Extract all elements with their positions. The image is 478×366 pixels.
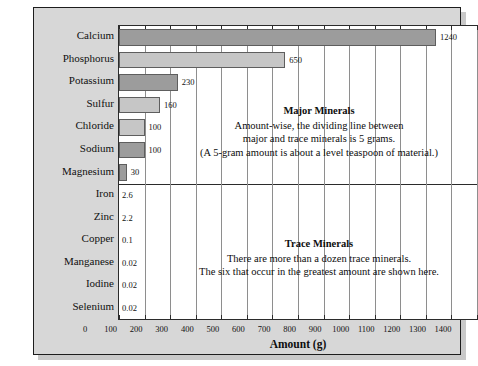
chart-panel: CalciumPhosphorusPotassiumSulfurChloride… [33,7,461,355]
x-axis-label: Amount (g) [118,338,478,350]
category-label-manganese: Manganese [34,255,114,267]
x-tick-label-1400: 1400 [428,324,458,334]
annotation-trace-line-2: The six that occur in the greatest amoun… [199,266,439,277]
category-label-phosphorus: Phosphorus [34,52,114,64]
annotation-trace-line-1: There are more than a dozen trace minera… [227,253,411,264]
annotation-major-line-2: major and trace minerals is 5 grams. [243,133,396,144]
bar-value-magnesium: 30 [131,167,140,177]
category-label-magnesium: Magnesium [34,165,114,177]
category-label-calcium: Calcium [34,29,114,41]
bar-value-potassium: 230 [182,77,195,87]
bar-value-zinc: 2.2 [122,213,133,223]
bar-row: 230 [119,71,477,94]
bar-value-iodine: 0.02 [122,280,137,290]
category-label-sulfur: Sulfur [34,97,114,109]
bar-value-iron: 2.6 [122,190,133,200]
bar-value-calcium: 1240 [440,32,457,42]
bar-sulfur [119,97,160,114]
category-axis: CalciumPhosphorusPotassiumSulfurChloride… [34,25,114,320]
category-label-chloride: Chloride [34,119,114,131]
bar-row: 2.6 [119,184,477,207]
category-label-selenium: Selenium [34,300,114,312]
bar-row: 650 [119,49,477,72]
bar-value-chloride: 100 [149,122,162,132]
category-label-copper: Copper [34,232,114,244]
bar-row: 1240 [119,26,477,49]
bar-phosphorus [119,52,285,69]
bar-value-selenium: 0.02 [122,303,137,313]
annotation-trace-minerals: Trace Minerals There are more than a doz… [174,237,464,279]
bar-value-phosphorus: 650 [289,55,302,65]
bar-value-manganese: 0.02 [122,258,137,268]
annotation-major-line-3: (A 5-gram amount is about a level teaspo… [200,147,438,158]
annotation-major-line-1: Amount-wise, the dividing line between [235,120,404,131]
bar-chloride [119,119,145,136]
bar-sodium [119,142,145,159]
annotation-trace-heading: Trace Minerals [174,237,464,251]
annotation-major-heading: Major Minerals [174,104,464,118]
bar-magnesium [119,164,127,181]
bar-row: 30 [119,161,477,184]
bar-value-copper: 0.1 [122,235,133,245]
bar-row: 2.2 [119,206,477,229]
bar-row: 0.02 [119,296,477,319]
annotation-major-minerals: Major Minerals Amount-wise, the dividing… [174,104,464,159]
category-label-iodine: Iodine [34,277,114,289]
category-label-zinc: Zinc [34,210,114,222]
bar-potassium [119,74,178,91]
category-label-potassium: Potassium [34,74,114,86]
bar-value-sodium: 100 [149,145,162,155]
category-label-iron: Iron [34,187,114,199]
bar-calcium [119,29,436,46]
category-label-sodium: Sodium [34,142,114,154]
